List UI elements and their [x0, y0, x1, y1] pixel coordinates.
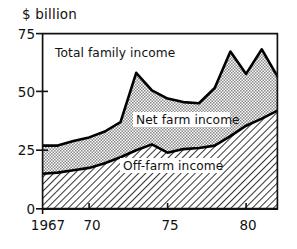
y-tick-label-50: 50 [18, 84, 35, 100]
x-tick-label-1967: 1967 [31, 217, 65, 233]
total-family-income-label: Total family income [54, 46, 175, 60]
net-farm-income-label: Net farm income [136, 113, 240, 127]
y-tick-label-0: 0 [26, 201, 35, 217]
x-tick-label-1980: 80 [239, 217, 256, 233]
total-family-income-annotation: Total family income [54, 46, 175, 60]
area-chart-svg: 75 50 25 0 1967 70 75 80 Total family in… [0, 0, 297, 249]
y-tick-label-75: 75 [18, 26, 35, 42]
plot-area [42, 49, 278, 209]
chart-container: $ billion [0, 0, 297, 249]
x-tick-label-1975: 75 [161, 217, 178, 233]
x-tick-label-1970: 70 [83, 217, 100, 233]
net-farm-income-annotation: Net farm income [133, 112, 240, 127]
off-farm-income-annotation: Off-farm income [120, 158, 223, 173]
y-tick-label-25: 25 [18, 142, 35, 158]
off-farm-income-label: Off-farm income [123, 159, 223, 173]
